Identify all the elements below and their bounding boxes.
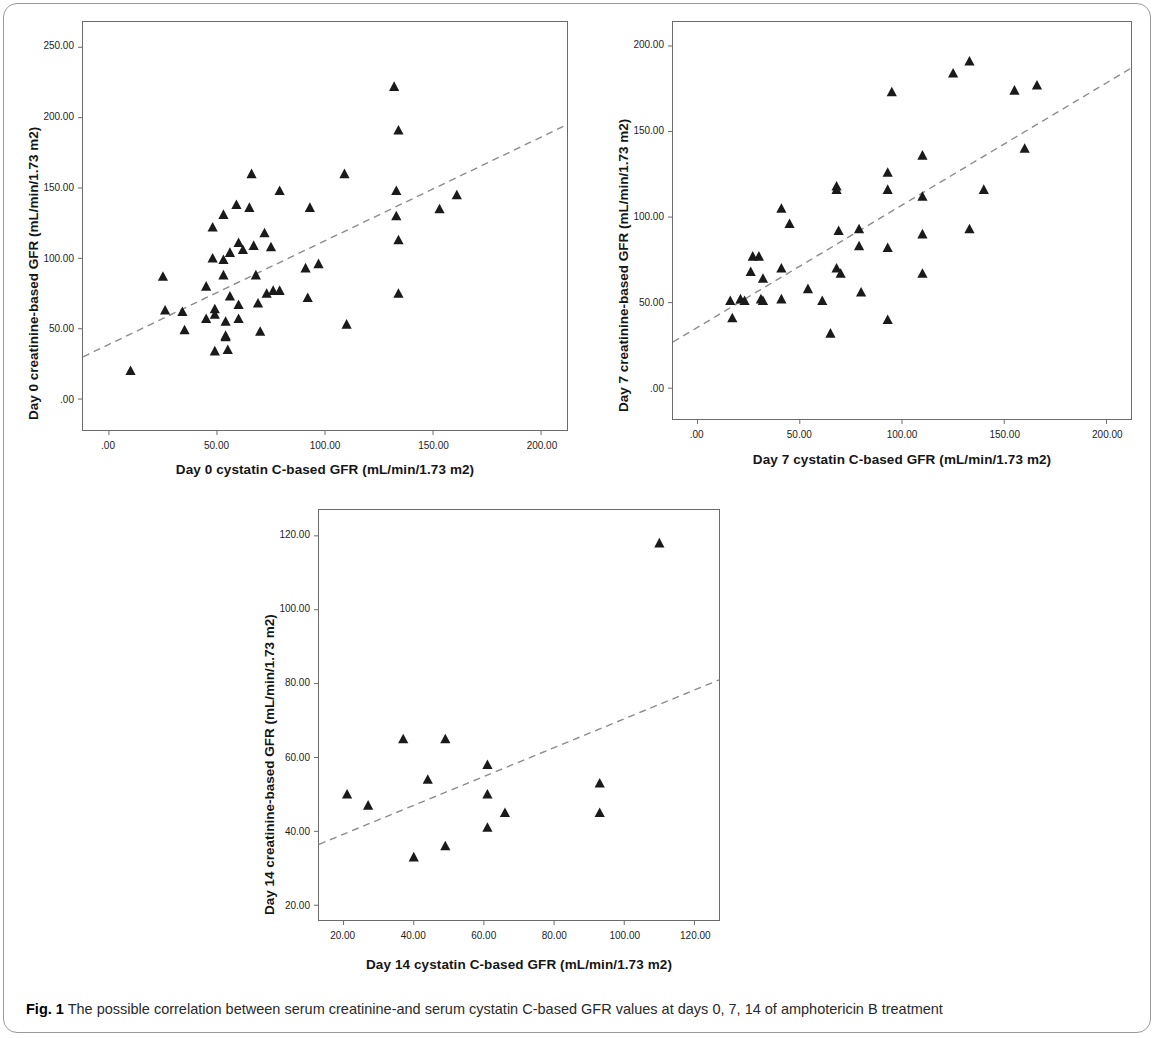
data-point-marker	[313, 259, 323, 269]
data-point-marker	[339, 169, 349, 179]
y-tick-label: 20.00	[256, 900, 310, 911]
data-point-marker	[423, 774, 433, 784]
data-point-marker	[244, 202, 254, 212]
y-tick-label: 50.00	[20, 323, 74, 334]
data-point-marker	[220, 316, 230, 326]
axis-title-y-day14: Day 14 creatinine-based GFR (mL/min/1.73…	[262, 614, 277, 915]
data-point-marker	[231, 200, 241, 210]
data-point-marker	[883, 243, 893, 253]
data-point-marker	[398, 734, 408, 744]
data-point-marker	[482, 789, 492, 799]
x-tick-label: 100.00	[872, 429, 932, 440]
data-point-marker	[259, 228, 269, 238]
data-point-marker	[246, 169, 256, 179]
data-point-marker	[834, 225, 844, 235]
y-tick-label: 100.00	[256, 603, 310, 614]
data-point-marker	[654, 538, 664, 548]
x-tick-label: .00	[667, 429, 727, 440]
data-point-marker	[255, 326, 265, 336]
data-point-marker	[201, 281, 211, 291]
data-point-marker	[725, 296, 735, 306]
data-point-marker	[389, 81, 399, 91]
scatter-canvas-day7	[673, 22, 1131, 419]
data-point-marker	[776, 294, 786, 304]
chart-panel-day14: Day 14 creatinine-based GFR (mL/min/1.73…	[230, 495, 890, 985]
data-point-marker	[979, 184, 989, 194]
data-point-marker	[363, 800, 373, 810]
data-point-marker	[883, 167, 893, 177]
y-tick-label: 120.00	[256, 529, 310, 540]
data-point-marker	[253, 298, 263, 308]
axis-title-y-day0: Day 0 creatinine-based GFR (mL/min/1.73 …	[26, 127, 41, 420]
data-point-marker	[393, 235, 403, 245]
data-point-marker	[208, 222, 218, 232]
data-point-marker	[1020, 143, 1030, 153]
plot-area-day0	[82, 21, 568, 431]
data-point-marker	[233, 238, 243, 248]
data-point-marker	[452, 190, 462, 200]
data-point-marker	[746, 266, 756, 276]
figure-caption-text: The possible correlation between serum c…	[64, 1001, 943, 1017]
y-tick-label: 250.00	[20, 40, 74, 51]
data-point-marker	[125, 366, 135, 376]
data-point-marker	[854, 241, 864, 251]
data-point-marker	[249, 240, 259, 250]
data-point-marker	[409, 852, 419, 862]
data-point-marker	[440, 734, 450, 744]
data-point-marker	[887, 87, 897, 97]
data-point-marker	[393, 125, 403, 135]
data-point-marker	[917, 229, 927, 239]
data-point-marker	[275, 185, 285, 195]
data-point-marker	[754, 251, 764, 261]
data-point-marker	[225, 247, 235, 257]
data-point-marker	[342, 789, 352, 799]
data-point-marker	[917, 268, 927, 278]
data-point-marker	[266, 242, 276, 252]
x-tick-label: 120.00	[665, 930, 725, 941]
data-point-marker	[251, 270, 261, 280]
axis-title-y-day7: Day 7 creatinine-based GFR (mL/min/1.73 …	[616, 119, 631, 412]
data-point-marker	[776, 203, 786, 213]
data-point-marker	[440, 841, 450, 851]
y-tick-label: 150.00	[610, 125, 664, 136]
axis-title-x-day0: Day 0 cystatin C-based GFR (mL/min/1.73 …	[82, 462, 568, 477]
x-tick-label: .00	[78, 440, 138, 451]
data-point-marker	[825, 328, 835, 338]
y-tick-label: 80.00	[256, 677, 310, 688]
y-tick-label: .00	[610, 383, 664, 394]
data-point-marker	[595, 778, 605, 788]
data-point-marker	[341, 319, 351, 329]
regression-line	[83, 125, 567, 357]
axis-title-x-day14: Day 14 cystatin C-based GFR (mL/min/1.73…	[318, 957, 720, 972]
x-tick-label: 40.00	[383, 930, 443, 941]
y-tick-label: 100.00	[20, 253, 74, 264]
x-tick-label: 60.00	[454, 930, 514, 941]
data-point-marker	[883, 314, 893, 324]
x-tick-label: 150.00	[403, 440, 463, 451]
data-point-marker	[917, 150, 927, 160]
figure-caption: Fig. 1 The possible correlation between …	[26, 1000, 1132, 1018]
y-tick-label: .00	[20, 394, 74, 405]
data-point-marker	[776, 263, 786, 273]
data-point-marker	[500, 808, 510, 818]
figure-page: Day 0 creatinine-based GFR (mL/min/1.73 …	[0, 0, 1156, 1038]
data-point-marker	[303, 292, 313, 302]
data-point-marker	[727, 313, 737, 323]
data-point-marker	[856, 287, 866, 297]
data-point-marker	[784, 219, 794, 229]
data-point-marker	[225, 291, 235, 301]
chart-panel-day0: Day 0 creatinine-based GFR (mL/min/1.73 …	[0, 0, 600, 485]
data-point-marker	[758, 273, 768, 283]
data-point-marker	[434, 204, 444, 214]
figure-caption-label: Fig. 1	[26, 1001, 64, 1017]
data-point-marker	[964, 224, 974, 234]
data-point-marker	[393, 288, 403, 298]
y-tick-label: 150.00	[20, 182, 74, 193]
data-point-marker	[275, 285, 285, 295]
data-point-marker	[158, 271, 168, 281]
x-tick-label: 80.00	[524, 930, 584, 941]
data-point-marker	[482, 822, 492, 832]
x-tick-label: 20.00	[313, 930, 373, 941]
data-point-marker	[883, 184, 893, 194]
data-point-marker	[482, 759, 492, 769]
